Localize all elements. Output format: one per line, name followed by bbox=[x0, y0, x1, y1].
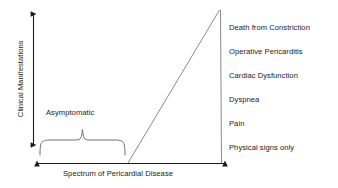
asymptomatic-label: Asymptomatic bbox=[46, 109, 94, 117]
pericardial-disease-spectrum-diagram: Clinical Manifestations Spectrum of Peri… bbox=[0, 0, 338, 188]
asymptomatic-brace bbox=[40, 130, 125, 156]
y-axis-title: Clinical Manifestations bbox=[17, 29, 25, 129]
manifestation-label-pain: Pain bbox=[229, 120, 244, 128]
severity-trend-line bbox=[128, 10, 220, 163]
x-axis-title: Spectrum of Pericardial Disease bbox=[63, 170, 173, 178]
manifestation-scale-line bbox=[221, 10, 222, 163]
manifestation-label-physical-signs-only: Physical signs only bbox=[229, 144, 294, 152]
manifestation-label-dyspnea: Dyspnea bbox=[229, 96, 259, 104]
manifestation-label-operative-pericarditis: Operative Pericarditis bbox=[229, 48, 303, 56]
manifestation-label-cardiac-dysfunction: Cardiac Dysfunction bbox=[229, 72, 298, 80]
manifestation-label-death-from-constriction: Death from Constriction bbox=[229, 24, 310, 32]
